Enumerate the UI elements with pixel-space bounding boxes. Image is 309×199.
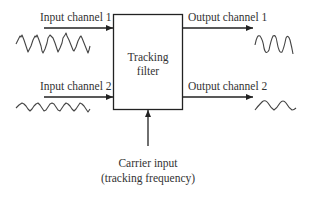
- carrier-input-sublabel: (tracking frequency): [78, 173, 218, 185]
- block-label-line-1: Tracking: [113, 52, 183, 64]
- input-channel-2-label: Input channel 2: [40, 81, 112, 93]
- input-channel-2-waveform-icon: [16, 103, 90, 112]
- input-channel-1-waveform-icon: [16, 33, 90, 53]
- output-channel-2-label: Output channel 2: [188, 81, 267, 93]
- tracking-filter-diagram: Input channel 1 Input channel 2 Output c…: [0, 0, 309, 199]
- output-channel-1-waveform-icon: [255, 36, 293, 54]
- output-channel-1-label: Output channel 1: [188, 12, 267, 24]
- block-label-line-2: filter: [113, 66, 183, 78]
- output-channel-2-waveform-icon: [255, 101, 296, 110]
- input-channel-1-label: Input channel 1: [40, 12, 112, 24]
- carrier-input-label: Carrier input: [88, 158, 208, 170]
